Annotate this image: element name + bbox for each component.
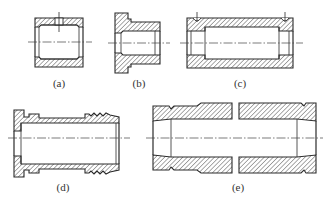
part-b-drawing <box>108 13 170 73</box>
part-d-drawing <box>8 110 130 177</box>
part-e-drawing <box>146 103 323 173</box>
bushing-diagram: (a) (b) (c) (d) (e) <box>0 0 326 199</box>
part-a-drawing <box>28 12 92 67</box>
label-b: (b) <box>133 78 146 89</box>
label-a: (a) <box>53 78 65 89</box>
diagram-canvas <box>0 0 326 199</box>
part-c-drawing <box>180 12 303 68</box>
label-d: (d) <box>57 182 70 193</box>
label-e: (e) <box>232 182 244 193</box>
label-c: (c) <box>234 78 246 89</box>
